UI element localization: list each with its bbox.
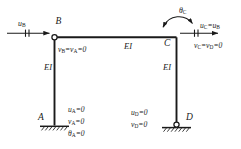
constraint-node-c-horizontal: uC=uB [200,22,220,30]
rotation-sub-c: C [183,9,187,15]
rotation-label-c: θC [179,7,187,15]
cb-end: =0 [77,45,86,54]
rotation-arc-c [163,17,193,27]
ei-label-beam: EI [124,42,132,51]
cd1-sub: D [135,111,139,117]
pin-support-d [162,122,191,132]
node-label-c: C [164,39,170,49]
cb-sub1: B [61,48,65,54]
ccv-end: =0 [213,41,222,50]
applied-displacement-label-b: uB [18,20,26,28]
ca2-val: =0 [75,117,84,126]
cd1-val: =0 [139,108,148,117]
hatching-a [42,127,68,131]
applied-displacement-arrow-b [7,30,50,37]
pin-hinge-circle-d [174,122,179,127]
cd2-val: =0 [138,120,147,129]
cd2-sub: D [134,123,138,129]
constraint-node-b: vB=vA=0 [58,46,86,54]
node-label-a: A [38,113,44,123]
ca2-sub: A [71,120,75,126]
ca3-val: =0 [76,129,85,138]
ccv-sub1: C [197,44,201,50]
constraint-node-d-1: uD=0 [131,109,148,117]
ca1-val: =0 [76,105,85,114]
ei-label-right-column: EI [163,63,171,72]
ccv-sub2: D [209,44,213,50]
force-sub-ub: B [22,22,26,28]
hatching-d [164,128,190,132]
constraint-node-a-1: uA=0 [68,106,85,114]
ei-label-left-column: EI [44,63,52,72]
constraint-node-a-3: θA=0 [68,130,85,138]
applied-displacement-arrow-c [180,30,218,37]
cch-sub2: B [216,24,220,30]
cb-sub2: A [73,48,77,54]
cch-mid: =u [207,21,216,30]
constraint-node-d-2: vD=0 [131,121,147,129]
fixed-support-a [40,126,69,130]
constraint-node-c-vertical: vC=vD=0 [194,42,222,50]
structural-frame-diagram: B C A D EI EI EI uB θC vB=vA=0 uC=uB vC=… [0,0,241,149]
ca3-sub: A [72,132,76,138]
node-label-b: B [56,17,62,27]
cch-sub1: C [204,24,208,30]
node-label-d: D [186,113,193,123]
ca1-sub: A [72,108,76,114]
joint-circle-b [52,35,57,40]
constraint-node-a-2: vA=0 [68,118,84,126]
